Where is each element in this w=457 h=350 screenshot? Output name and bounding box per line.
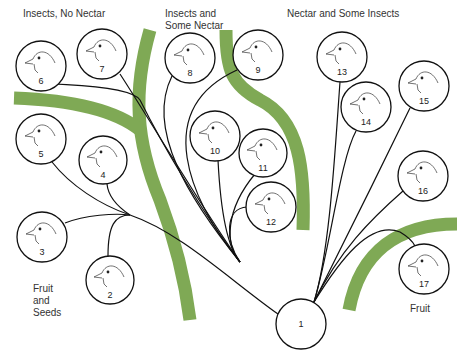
node-number: 5 — [38, 149, 43, 159]
node-number: 1 — [298, 319, 303, 329]
species-node-6: 6 — [16, 41, 66, 91]
species-node-17: 17 — [399, 244, 449, 294]
node-number: 8 — [187, 68, 192, 78]
node-number: 16 — [418, 186, 428, 196]
node-number: 10 — [210, 146, 220, 156]
species-node-14: 14 — [341, 82, 391, 132]
species-node-5: 5 — [16, 114, 66, 164]
species-node-9: 9 — [233, 30, 283, 80]
species-node-11: 11 — [239, 129, 287, 177]
diet-dividers — [14, 30, 457, 320]
group-label-nectar-some-insects: Nectar and Some Insects — [287, 8, 399, 20]
node-number: 14 — [361, 117, 371, 127]
species-node-1: 1 — [276, 299, 326, 349]
node-number: 17 — [419, 279, 429, 289]
node-number: 9 — [255, 65, 260, 75]
node-number: 2 — [107, 290, 112, 300]
species-node-10: 10 — [190, 111, 240, 161]
node-number: 15 — [419, 96, 429, 106]
group-label-fruit-seeds: Fruit and Seeds — [33, 283, 61, 319]
node-number: 7 — [99, 64, 104, 74]
species-node-3: 3 — [17, 212, 67, 262]
species-node-7: 7 — [77, 29, 127, 79]
group-label-fruit: Fruit — [410, 303, 430, 315]
node-number: 11 — [258, 163, 267, 173]
node-number: 13 — [337, 67, 347, 77]
group-label-insects-no-nectar: Insects, No Nectar — [23, 8, 105, 20]
node-number: 12 — [266, 217, 276, 227]
species-node-16: 16 — [398, 151, 448, 201]
honeycreeper-radiation-diagram: 1234567891011121314151617 — [0, 0, 457, 350]
species-node-2: 2 — [86, 256, 134, 304]
species-node-12: 12 — [246, 182, 296, 232]
species-node-8: 8 — [165, 33, 215, 83]
group-label-insects-some-nectar: Insects and Some Nectar — [165, 8, 223, 32]
species-node-4: 4 — [79, 136, 127, 184]
node-number: 3 — [39, 247, 44, 257]
species-node-13: 13 — [317, 32, 367, 82]
species-node-15: 15 — [399, 61, 449, 111]
node-number: 6 — [38, 76, 43, 86]
node-number: 4 — [100, 170, 105, 180]
